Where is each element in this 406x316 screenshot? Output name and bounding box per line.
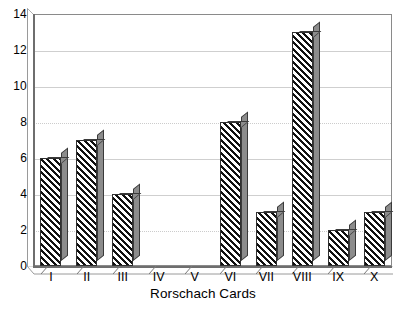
bar-side-face-I — [61, 148, 68, 261]
y-tick-14 — [26, 11, 34, 18]
bar-front-face-II — [76, 140, 97, 266]
bar-chart: 14 12 10 8 6 4 2 0 IIIIIIIVVVIVIIVIIIIXX… — [0, 0, 406, 316]
gridline-12 — [34, 51, 391, 52]
bar-front-face-VIII — [292, 32, 313, 266]
bar-III — [112, 187, 140, 266]
x-tick-label-VI: VI — [225, 270, 237, 284]
bar-VI — [220, 115, 248, 266]
y-tick-label-14: 14 — [13, 8, 27, 20]
y-tick-10 — [26, 83, 34, 90]
bar-X — [364, 205, 392, 266]
bar-front-face-III — [112, 194, 133, 266]
bar-front-face-X — [364, 212, 385, 266]
gridline-10 — [34, 87, 391, 88]
y-tick-label-4: 4 — [20, 188, 27, 200]
x-axis-title: Rorschach Cards — [0, 286, 406, 302]
y-tick-label-6: 6 — [20, 152, 27, 164]
x-axis-line — [33, 266, 392, 268]
bar-side-face-II — [97, 130, 104, 261]
bar-front-face-I — [40, 158, 61, 266]
y-tick-label-8: 8 — [20, 116, 27, 128]
y-tick-label-2: 2 — [20, 224, 27, 236]
x-tick-I — [41, 266, 49, 275]
x-tick-label-X: X — [370, 270, 378, 284]
bar-IX — [328, 223, 356, 266]
y-tick-0 — [26, 263, 34, 270]
bar-front-face-IX — [328, 230, 349, 266]
y-tick-label-0: 0 — [20, 260, 27, 272]
x-tick-label-VIII: VIII — [293, 270, 312, 284]
bar-front-face-VII — [256, 212, 277, 266]
caption-fragment — [30, 306, 180, 313]
x-tick-label-IV: IV — [153, 270, 165, 284]
y-tick-12 — [26, 47, 34, 54]
y-tick-2 — [26, 227, 34, 234]
x-tick-label-IX: IX — [332, 270, 344, 284]
bar-II — [76, 133, 104, 266]
bar-side-face-IX — [349, 220, 356, 261]
y-tick-4 — [26, 191, 34, 198]
bar-side-face-VI — [241, 112, 248, 261]
x-tick-label-VII: VII — [259, 270, 274, 284]
bar-side-face-VIII — [313, 22, 320, 261]
x-tick-label-III: III — [118, 270, 128, 284]
y-tick-label-12: 12 — [13, 44, 27, 56]
bar-VII — [256, 205, 284, 266]
x-tick-label-II: II — [83, 270, 90, 284]
x-tick-label-I: I — [49, 270, 52, 284]
y-tick-6 — [26, 155, 34, 162]
bar-front-face-VI — [220, 122, 241, 266]
y-tick-8 — [26, 119, 34, 126]
y-tick-label-10: 10 — [13, 80, 27, 92]
bar-VIII — [292, 25, 320, 266]
x-tick-label-V: V — [190, 270, 198, 284]
gridline-8 — [34, 123, 391, 124]
bar-I — [40, 151, 68, 266]
